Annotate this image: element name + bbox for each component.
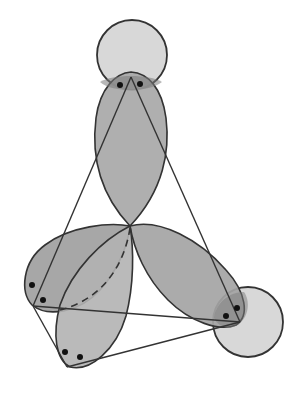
electron-dot [77,354,83,360]
electron-dot [62,349,68,355]
top-lobe [95,72,167,226]
tetrahedral-orbital-diagram [0,0,308,393]
electron-dot [29,282,35,288]
electron-dot [137,81,143,87]
electron-dot [234,305,240,311]
electron-dot [223,313,229,319]
electron-dot [40,297,46,303]
electron-dot [117,82,123,88]
